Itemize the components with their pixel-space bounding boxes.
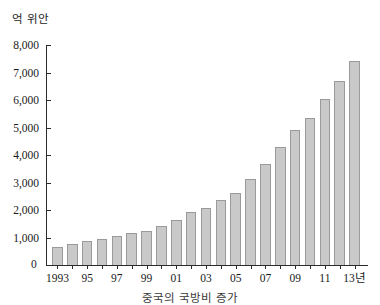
- x-axis-tick-mark: [117, 265, 118, 269]
- x-axis-tick-mark: [265, 265, 266, 269]
- chart-caption: 중국의 국방비 증가: [0, 289, 380, 305]
- x-axis-tick-mark: [57, 265, 58, 269]
- x-axis-tick-mark: [147, 265, 148, 269]
- x-axis-tick-mark: [72, 265, 73, 269]
- bar: [112, 236, 123, 265]
- y-axis-tick-label: 4,000: [13, 147, 39, 163]
- bar: [141, 231, 152, 265]
- x-axis-tick-mark: [236, 265, 237, 269]
- y-axis-tick-label: 2,000: [13, 202, 39, 218]
- y-axis-tick-label: 5,000: [13, 120, 39, 136]
- x-axis-tick-mark: [280, 265, 281, 269]
- x-axis-tick-label: 03: [200, 271, 212, 285]
- y-axis-tick-mark: [47, 210, 51, 211]
- x-axis-tick-mark: [295, 265, 296, 269]
- x-axis-tick-label: 1993: [46, 271, 69, 285]
- y-axis-unit-label: 억 위안: [12, 10, 49, 26]
- x-axis-tick-label: 13년: [343, 271, 366, 285]
- x-axis-tick-label: 01: [171, 271, 183, 285]
- y-axis-tick-mark: [47, 45, 51, 46]
- x-axis-tick-mark: [176, 265, 177, 269]
- x-axis-tick-mark: [87, 265, 88, 269]
- y-axis-tick-mark: [47, 100, 51, 101]
- x-axis-tick-mark: [355, 265, 356, 269]
- x-axis-tick-mark: [340, 265, 341, 269]
- x-axis-tick-mark: [132, 265, 133, 269]
- bar: [230, 193, 241, 265]
- bar: [349, 61, 360, 265]
- y-axis-zero-label: 0: [31, 257, 37, 271]
- y-axis-tick-mark: [47, 155, 51, 156]
- bar: [290, 130, 301, 265]
- y-axis-tick-label: 8,000: [13, 37, 39, 53]
- plot-area: 1,0002,0003,0004,0005,0006,0007,0008,000…: [46, 45, 368, 265]
- bar: [201, 208, 212, 265]
- x-axis-tick-label: 07: [260, 271, 272, 285]
- x-axis-tick-mark: [206, 265, 207, 269]
- bar: [171, 220, 182, 265]
- y-axis-tick-label: 3,000: [13, 175, 39, 191]
- bar: [52, 247, 63, 265]
- bar: [275, 147, 286, 265]
- bar: [156, 226, 167, 265]
- x-axis-tick-label: 95: [81, 271, 93, 285]
- bar: [320, 99, 331, 265]
- x-axis-tick-mark: [191, 265, 192, 269]
- y-axis-tick-mark: [47, 73, 51, 74]
- x-axis-tick-label: 09: [289, 271, 301, 285]
- y-axis-tick-mark: [47, 128, 51, 129]
- y-axis-tick-label: 1,000: [13, 230, 39, 246]
- bar: [260, 164, 271, 265]
- x-axis-line: [46, 265, 368, 266]
- x-axis-tick-label: 99: [141, 271, 153, 285]
- y-axis-tick-mark: [47, 183, 51, 184]
- bar: [305, 118, 316, 265]
- y-axis-tick-label: 7,000: [13, 65, 39, 81]
- x-axis-tick-mark: [310, 265, 311, 269]
- x-axis-tick-label: 97: [111, 271, 123, 285]
- x-axis-tick-mark: [251, 265, 252, 269]
- bar: [245, 179, 256, 265]
- bar: [126, 233, 137, 265]
- bar: [334, 81, 345, 265]
- x-axis-tick-mark: [161, 265, 162, 269]
- x-axis-tick-label: 11: [319, 271, 330, 285]
- bar: [97, 239, 108, 265]
- y-axis-tick-label: 6,000: [13, 92, 39, 108]
- bar: [82, 241, 93, 265]
- bar: [186, 212, 197, 265]
- x-axis-tick-mark: [102, 265, 103, 269]
- bar: [67, 244, 78, 265]
- x-axis-tick-mark: [325, 265, 326, 269]
- y-axis-tick-mark: [47, 238, 51, 239]
- bar: [216, 200, 227, 265]
- x-axis-tick-label: 05: [230, 271, 242, 285]
- x-axis-tick-mark: [221, 265, 222, 269]
